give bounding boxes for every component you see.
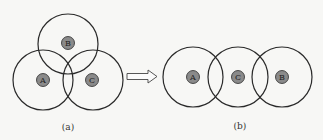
panel-a: B A C (a) [13,14,123,132]
panel-b: A C B (b) [163,47,312,131]
node-a-label: A [189,73,196,82]
caption-b: (b) [234,121,247,131]
node-c-label: C [89,76,95,85]
node-b-label: B [279,73,285,82]
caption-a: (a) [62,122,74,132]
node-c-label: C [235,73,241,82]
node-b-label: B [65,39,71,48]
right-arrow-icon [127,70,157,83]
diagram: B A C (a) A C B (b) [0,0,323,140]
node-a-label: A [39,76,46,85]
